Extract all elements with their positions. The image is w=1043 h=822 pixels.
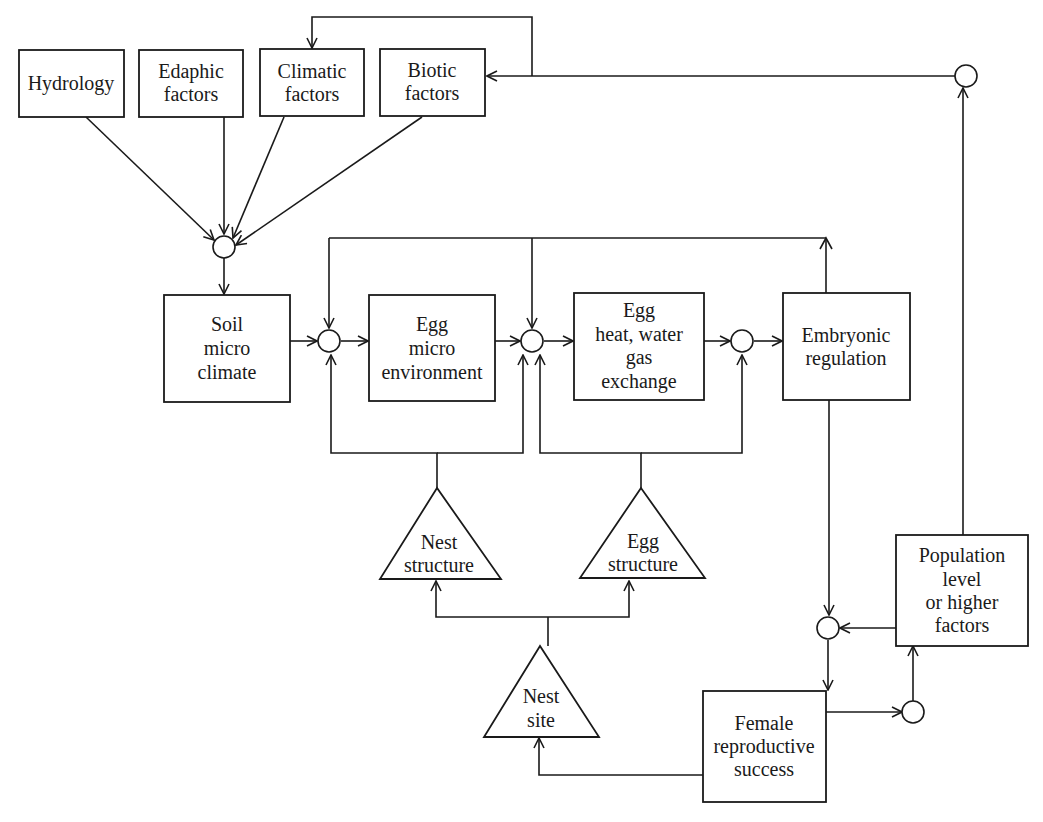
svg-text:factors: factors [285, 83, 340, 105]
svg-text:gas: gas [626, 346, 653, 369]
junction-e [902, 701, 924, 723]
svg-text:Embryonic: Embryonic [802, 324, 891, 347]
svg-text:regulation: regulation [805, 347, 886, 370]
box-population-level: Population level or higher factors [896, 535, 1028, 646]
box-embryonic-regulation: Embryonic regulation [783, 293, 910, 400]
svg-text:factors: factors [164, 83, 219, 105]
svg-text:micro: micro [204, 337, 251, 359]
svg-text:factors: factors [405, 82, 460, 104]
box-female-reproductive-success: Female reproductive success [703, 691, 826, 802]
arrow-climatic-to-junction [233, 117, 284, 238]
svg-text:success: success [734, 758, 794, 780]
triangle-egg-structure: Egg structure [580, 488, 705, 578]
arrow-biotic-to-junction [236, 117, 422, 245]
nest-site-to-egg-structure [548, 581, 629, 617]
svg-text:Climatic: Climatic [278, 60, 347, 82]
svg-text:Hydrology: Hydrology [28, 72, 115, 95]
triangle-nest-structure: Nest structure [380, 488, 501, 579]
svg-text:Nest: Nest [421, 531, 458, 553]
svg-text:micro: micro [409, 337, 456, 359]
svg-text:structure: structure [608, 553, 678, 575]
svg-text:Population: Population [919, 544, 1006, 567]
nest-site-to-nest-structure [436, 581, 548, 617]
svg-text:Biotic: Biotic [408, 59, 457, 81]
svg-text:level: level [943, 568, 982, 590]
female-to-nest-site [539, 738, 724, 775]
svg-text:environment: environment [381, 361, 483, 383]
svg-text:exchange: exchange [601, 370, 677, 393]
junction-soil [213, 236, 235, 258]
svg-text:factors: factors [935, 614, 990, 636]
svg-text:reproductive: reproductive [713, 735, 814, 758]
svg-text:Edaphic: Edaphic [158, 60, 224, 83]
box-climatic-factors: Climatic factors [260, 49, 364, 116]
junction-b [521, 330, 543, 352]
svg-text:Egg: Egg [627, 530, 659, 553]
svg-text:Soil: Soil [211, 313, 244, 335]
svg-text:Egg: Egg [416, 313, 448, 336]
box-biotic-factors: Biotic factors [380, 49, 485, 116]
junction-d [817, 617, 839, 639]
triangle-nest-site: Nest site [484, 646, 599, 737]
box-edaphic-factors: Edaphic factors [139, 50, 243, 117]
svg-text:or higher: or higher [926, 591, 999, 614]
svg-text:Egg: Egg [623, 299, 655, 322]
arrow-hydrology-to-junction [86, 117, 214, 240]
svg-text:Female: Female [735, 712, 794, 734]
svg-text:site: site [527, 709, 555, 731]
svg-text:Nest: Nest [523, 685, 560, 707]
svg-text:structure: structure [404, 554, 474, 576]
box-egg-heat-water-gas-exchange: Egg heat, water gas exchange [574, 293, 704, 400]
box-egg-micro-environment: Egg micro environment [369, 295, 495, 401]
box-hydrology: Hydrology [19, 50, 124, 117]
junction-top-right [955, 65, 977, 87]
flow-diagram: Hydrology Edaphic factors Climatic facto… [0, 0, 1043, 822]
svg-text:climate: climate [198, 361, 257, 383]
junction-c [731, 330, 753, 352]
box-soil-micro-climate: Soil micro climate [164, 295, 290, 402]
junction-a [318, 330, 340, 352]
svg-text:heat, water: heat, water [595, 323, 683, 345]
